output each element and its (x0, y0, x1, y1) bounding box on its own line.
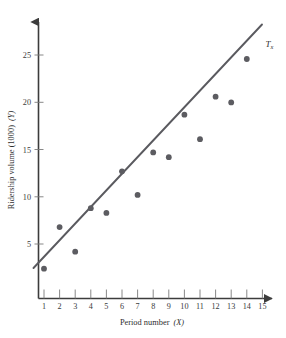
x-axis-title-main: Period number (120, 318, 170, 327)
scatter-chart: 5 10 15 20 25 1 2 3 4 5 (0, 0, 286, 338)
y-axis-title-main: Ridership volume (1000) (7, 125, 16, 209)
data-point (72, 249, 78, 255)
x-tick-label: 15 (258, 302, 266, 311)
data-point (104, 210, 110, 216)
chart-canvas: 5 10 15 20 25 1 2 3 4 5 (0, 0, 286, 338)
trend-line (34, 25, 263, 269)
x-axis-ticks: 1 2 3 4 5 6 7 8 9 10 11 12 13 14 15 (42, 290, 267, 312)
trend-line-label: Tx (266, 39, 274, 50)
data-point (228, 100, 234, 106)
x-axis-title-variable: (X) (173, 318, 184, 327)
x-tick-label: 2 (58, 302, 62, 311)
y-tick-label: 10 (23, 193, 31, 202)
trend-line-series: Tx (34, 25, 274, 269)
data-point (150, 150, 156, 156)
y-tick-label: 20 (23, 98, 31, 107)
data-point (213, 94, 219, 100)
x-axis-title: Period number(X) (120, 318, 184, 327)
x-tick-label: 7 (136, 302, 140, 311)
y-axis-title-variable: (Y) (7, 111, 16, 121)
data-point (119, 168, 125, 174)
x-tick-label: 11 (196, 302, 204, 311)
data-point (182, 112, 188, 118)
x-tick-label: 9 (167, 302, 171, 311)
x-tick-label: 1 (42, 302, 46, 311)
data-point (197, 136, 203, 142)
x-tick-label: 10 (180, 302, 188, 311)
x-tick-label: 4 (89, 302, 93, 311)
data-point (244, 56, 250, 62)
x-tick-label: 8 (151, 302, 155, 311)
y-tick-label: 25 (23, 51, 31, 60)
y-tick-label: 15 (23, 146, 31, 155)
y-axis-ticks: 5 10 15 20 25 (23, 51, 44, 249)
x-tick-label: 14 (243, 302, 251, 311)
trend-line-label-subscript: x (270, 43, 274, 50)
data-point (57, 224, 63, 230)
data-point (135, 192, 141, 198)
y-axis-title: Ridership volume (1000)(Y) (7, 111, 16, 210)
data-point (88, 205, 94, 211)
axis-titles: Period number(X) Ridership volume (1000)… (7, 111, 184, 327)
x-tick-label: 5 (104, 302, 108, 311)
x-tick-label: 3 (73, 302, 77, 311)
data-point (41, 266, 47, 272)
x-tick-label: 6 (120, 302, 124, 311)
x-tick-label: 13 (227, 302, 235, 311)
axes (39, 22, 273, 299)
x-tick-label: 12 (212, 302, 220, 311)
data-point (166, 154, 172, 160)
data-points (41, 56, 250, 272)
y-tick-label: 5 (27, 240, 31, 249)
